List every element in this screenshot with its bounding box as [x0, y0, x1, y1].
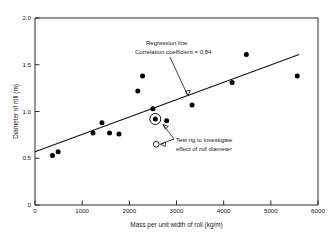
- data-point: [56, 149, 61, 154]
- plot-frame: [35, 18, 318, 205]
- data-point: [230, 80, 235, 85]
- data-point: [135, 88, 140, 93]
- y-tick-label-0: 0: [28, 201, 32, 208]
- x-tick-label-0: 0: [33, 207, 37, 214]
- test-rig-arrowhead-icon: [161, 142, 166, 146]
- data-point: [190, 103, 195, 108]
- x-tick-label-6000: 6000: [311, 207, 325, 214]
- test-rig-annotation-line2: effect of roll diameter: [176, 146, 232, 152]
- data-point: [164, 118, 169, 123]
- y-tick-label-2-0: 2.0: [22, 14, 31, 21]
- test-rig-point: [153, 141, 159, 147]
- data-point: [99, 120, 104, 125]
- data-point: [107, 130, 112, 135]
- data-point: [91, 130, 96, 135]
- data-point: [50, 153, 55, 158]
- y-tick-label-0-5: 0.5: [22, 154, 31, 161]
- regression-annotation: Regression line Correlation coefficient …: [135, 40, 212, 96]
- x-axis-title: Mass per unit width of roll (kg/m): [130, 221, 222, 229]
- test-rig-annotation-line1: Test rig to investigate: [176, 137, 233, 143]
- x-axis-ticks: [35, 201, 318, 206]
- scatter-plot-figure: 0 0.5 1.0 1.5 2.0 0 1000 2000 3000 4000 …: [0, 0, 332, 238]
- data-point: [140, 73, 145, 78]
- plot-canvas: 0 0.5 1.0 1.5 2.0 0 1000 2000 3000 4000 …: [0, 0, 332, 238]
- x-tick-label-5000: 5000: [264, 207, 278, 214]
- test-rig-annotation: Test rig to investigate effect of roll d…: [161, 125, 234, 153]
- x-tick-label-3000: 3000: [170, 207, 184, 214]
- regression-leader-line: [170, 57, 188, 96]
- test-rig-ring-leader-line: [163, 125, 174, 140]
- y-tick-label-1-0: 1.0: [22, 108, 31, 115]
- regression-annotation-line1: Regression line: [146, 40, 188, 46]
- x-tick-label-2000: 2000: [122, 207, 136, 214]
- data-point: [116, 131, 121, 136]
- test-rig-ring-arrowhead-icon: [163, 125, 168, 130]
- y-axis-tick-labels: 0 0.5 1.0 1.5 2.0: [22, 14, 31, 208]
- data-point: [153, 116, 158, 121]
- axes-border: [35, 18, 318, 205]
- data-point: [244, 52, 249, 57]
- x-tick-label-4000: 4000: [217, 207, 231, 214]
- regression-annotation-line2: Correlation coefficient = 0.84: [135, 49, 212, 55]
- y-axis-ticks: [35, 18, 40, 205]
- x-axis-tick-labels: 0 1000 2000 3000 4000 5000 6000: [33, 207, 325, 214]
- y-axis-title: Diameter of roll (m): [12, 84, 20, 139]
- regression-line: [35, 55, 299, 152]
- x-tick-label-1000: 1000: [75, 207, 89, 214]
- y-tick-label-1-5: 1.5: [22, 61, 31, 68]
- data-point: [150, 106, 155, 111]
- data-point: [295, 73, 300, 78]
